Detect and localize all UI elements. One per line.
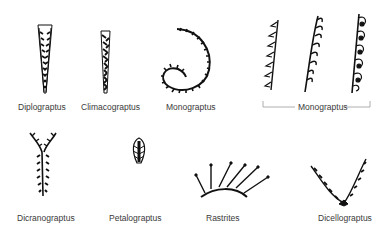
label-dicranograptus: Dicranograptus: [17, 213, 75, 223]
label-rastrites: Rastrites: [206, 213, 240, 223]
label-monograptus-group: Monograptus: [298, 102, 348, 112]
monograptus-1-drawing: [265, 20, 278, 90]
label-dicellograptus: Dicellograptus: [318, 213, 372, 223]
dicellograptus-drawing: [311, 159, 366, 206]
graptolite-diagram: [0, 0, 386, 233]
monograptus-3-drawing: [352, 14, 365, 93]
rastrites-drawing: [195, 162, 269, 197]
diplograptus-drawing: [38, 25, 52, 93]
dicranograptus-drawing: [30, 133, 56, 196]
monograptus-spiral-drawing: [161, 28, 210, 93]
label-petalograptus: Petalograptus: [109, 213, 161, 223]
label-diplograptus: Diplograptus: [18, 102, 66, 112]
climacograptus-drawing: [101, 31, 110, 93]
label-monograptus-spiral: Monograptus: [166, 102, 216, 112]
petalograptus-drawing: [133, 138, 145, 163]
monograptus-2-drawing: [305, 16, 322, 92]
label-climacograptus: Climacograptus: [81, 102, 140, 112]
